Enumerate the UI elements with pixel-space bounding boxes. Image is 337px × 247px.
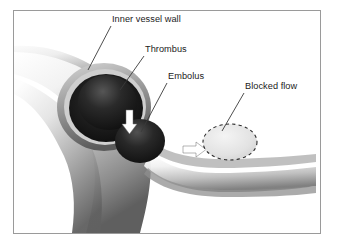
vessel-illustration: Inner vessel wall Thrombus Embolus Block…	[0, 0, 337, 247]
embolus-travel-arrow-icon	[183, 142, 206, 157]
label-blocked-flow: Blocked flow	[245, 81, 297, 91]
figure-root: Inner vessel wall Thrombus Embolus Block…	[0, 0, 337, 247]
embolus-mass	[115, 119, 165, 163]
label-embolus: Embolus	[168, 71, 204, 81]
label-thrombus: Thrombus	[145, 44, 187, 54]
label-inner-vessel-wall: Inner vessel wall	[112, 14, 181, 24]
